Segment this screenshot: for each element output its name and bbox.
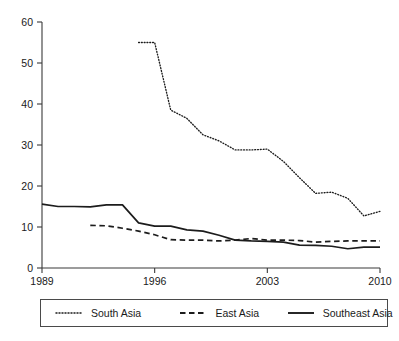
legend-label-south-asia: South Asia — [91, 307, 141, 319]
legend-label-southeast-asia: Southeast Asia — [323, 307, 393, 319]
legend-item-southeast-asia: Southeast Asia — [287, 307, 387, 319]
legend-swatch-dashed-icon — [179, 308, 207, 318]
y-tick-label: 60 — [21, 16, 33, 28]
y-tick-label: 10 — [21, 221, 33, 233]
legend-item-south-asia: South Asia — [41, 307, 179, 319]
legend-label-east-asia: East Asia — [215, 307, 259, 319]
y-tick-label: 30 — [21, 139, 33, 151]
x-tick-label: 1996 — [143, 275, 167, 287]
line-chart: 01020304050601989199620032010 South Asia… — [0, 0, 399, 341]
x-tick-label: 2003 — [256, 275, 280, 287]
chart-legend: South Asia East Asia Southeast Asia — [40, 299, 388, 327]
y-tick-label: 40 — [21, 98, 33, 110]
y-tick-label: 20 — [21, 180, 33, 192]
chart-plot-area: 01020304050601989199620032010 — [0, 0, 399, 341]
legend-swatch-solid-icon — [287, 308, 315, 318]
y-tick-label: 50 — [21, 57, 33, 69]
x-tick-label: 2010 — [368, 275, 392, 287]
series-line-south-asia — [139, 43, 380, 216]
legend-item-east-asia: East Asia — [179, 307, 286, 319]
y-tick-label: 0 — [27, 262, 33, 274]
legend-swatch-dotted-icon — [55, 308, 83, 318]
x-tick-label: 1989 — [30, 275, 54, 287]
